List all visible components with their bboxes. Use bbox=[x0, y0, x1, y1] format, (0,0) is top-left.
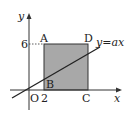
x-tick-2: 2 bbox=[41, 92, 48, 105]
point-c-label: C bbox=[82, 92, 90, 105]
line-label: y=ax bbox=[95, 36, 125, 49]
point-a-label: A bbox=[39, 32, 49, 45]
point-b-label: B bbox=[46, 78, 54, 91]
coordinate-diagram: y 6 A D y=ax B O 2 C x bbox=[0, 0, 133, 114]
y-axis-arrow-icon bbox=[27, 13, 32, 19]
y-axis-label: y bbox=[17, 10, 25, 23]
point-d-label: D bbox=[84, 32, 93, 45]
origin-label: O bbox=[30, 92, 39, 105]
x-axis-label: x bbox=[114, 92, 121, 105]
y-tick-6: 6 bbox=[21, 38, 28, 51]
